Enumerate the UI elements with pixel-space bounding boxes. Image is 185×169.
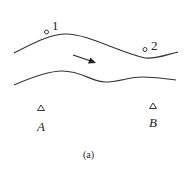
station-a-triangle-icon <box>38 105 45 111</box>
lower-bank-line <box>14 71 176 85</box>
point-1-label: 1 <box>52 18 59 33</box>
flow-arrow-icon <box>73 55 96 64</box>
point-2-label: 2 <box>151 38 158 53</box>
point-2-circle-icon <box>143 48 147 52</box>
station-b-triangle-icon <box>150 103 157 109</box>
figure-caption: (a) <box>83 149 94 161</box>
station-a-label: A <box>36 119 45 134</box>
station-b-label: B <box>149 115 157 130</box>
river-diagram: 1 2 A B (a) <box>0 0 185 169</box>
point-1-circle-icon <box>45 30 49 34</box>
